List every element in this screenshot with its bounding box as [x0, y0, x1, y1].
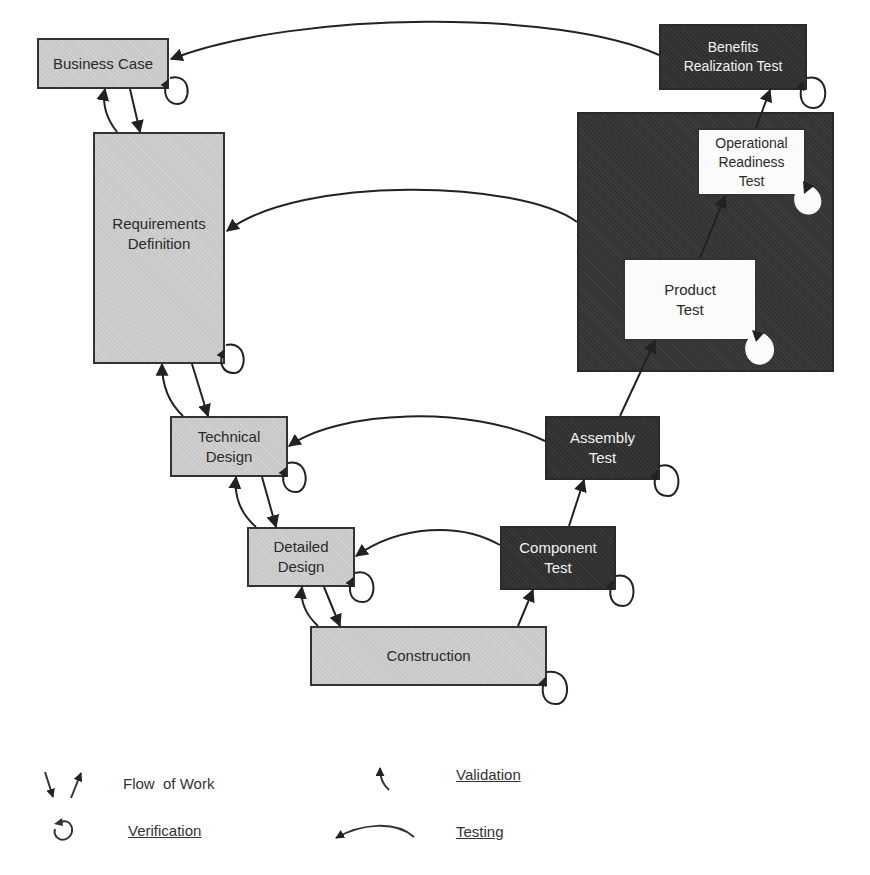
testing-arc-component-to-detailed: [356, 530, 500, 556]
validation-detailed-to-technical: [236, 477, 256, 527]
legend-validation-label: Validation: [456, 766, 521, 783]
legend-flow-up-arrow-icon: [71, 773, 81, 798]
testing-arc-product-to-requirements: [227, 190, 577, 231]
flow-requirements-to-technical: [192, 364, 208, 416]
flow-assembly-to-product: [620, 341, 655, 416]
verification-loop-construction: [543, 672, 567, 704]
testing-arc-benefits-to-business: [171, 22, 659, 59]
validation-requirements-to-business: [104, 89, 117, 132]
validation-construction-to-detailed: [302, 587, 318, 626]
flow-construction-to-component: [518, 590, 533, 626]
flow-product-to-operational: [700, 196, 725, 258]
verification-loop-component: [610, 576, 633, 606]
flow-technical-to-detailed: [262, 477, 276, 527]
verification-loop-requirements: [221, 344, 243, 373]
legend-testing-label: Testing: [456, 823, 504, 840]
legend-flow-of-work-label: Flow of Work: [123, 775, 214, 792]
legend-testing-icon: [336, 826, 414, 838]
legend-verification-label: Verification: [128, 822, 201, 839]
flow-business-to-requirements: [130, 89, 140, 132]
testing-arc-assembly-to-technical: [289, 416, 545, 446]
connectors-layer: [0, 0, 870, 875]
verification-loop-detailed: [350, 572, 373, 602]
flow-detailed-to-construction: [324, 587, 340, 626]
flow-component-to-assembly: [569, 480, 584, 526]
flow-operational-to-benefits: [756, 90, 770, 128]
verification-loop-technical: [283, 462, 305, 492]
verification-loop-assembly: [655, 465, 679, 496]
legend-flow-down-arrow-icon: [45, 772, 53, 797]
verification-loop-benefits: [801, 78, 826, 108]
validation-technical-to-requirements: [162, 364, 183, 416]
verification-loop-business: [165, 77, 187, 104]
legend-validation-icon: [380, 768, 389, 790]
v-model-diagram: Business Case Requirements Definition Te…: [0, 0, 870, 875]
